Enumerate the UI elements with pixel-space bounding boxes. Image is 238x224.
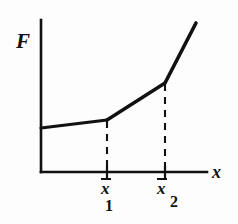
curve-segment-3 bbox=[165, 23, 196, 83]
plot-canvas bbox=[0, 0, 238, 224]
x-tick-label-1-overbar bbox=[101, 178, 111, 180]
x-tick-label-2: x 2 bbox=[157, 180, 166, 197]
curve-segment-2 bbox=[107, 83, 165, 120]
x-tick-label-2-variable: x bbox=[157, 179, 166, 198]
x-tick-label-1-base: x bbox=[101, 180, 110, 197]
x-tick-label-2-subscript: 2 bbox=[170, 194, 178, 210]
figure-container: F x x 1 x 2 bbox=[0, 0, 238, 224]
y-axis-label: F bbox=[16, 31, 30, 52]
curve-segment-1 bbox=[41, 120, 107, 128]
x-axis-label: x bbox=[212, 163, 221, 181]
x-tick-label-2-overbar bbox=[157, 178, 167, 180]
x-tick-label-2-base: x bbox=[157, 180, 166, 197]
x-tick-label-1: x 1 bbox=[101, 180, 110, 197]
x-tick-label-1-variable: x bbox=[101, 179, 110, 198]
x-tick-label-1-subscript: 1 bbox=[105, 198, 113, 214]
